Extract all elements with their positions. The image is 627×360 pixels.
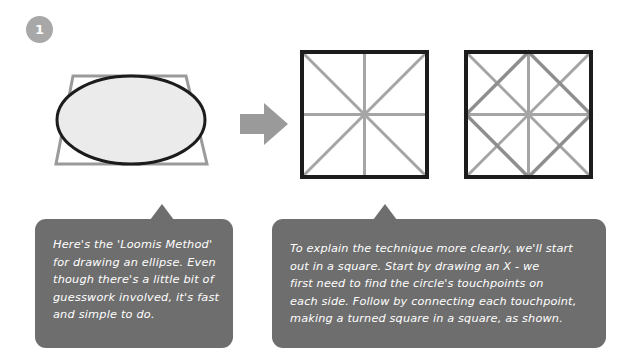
square-guides [466, 52, 591, 177]
square-with-x-icon [296, 46, 434, 184]
square-technique-text: To explain the technique more clearly, w… [290, 240, 595, 328]
square-guides [302, 52, 427, 177]
right-arrow-icon [238, 100, 290, 148]
loomis-method-speech-bubble: Here's the 'Loomis Method' for drawing a… [35, 219, 233, 348]
right-arrow-figure [238, 100, 290, 148]
square-with-turned-square-figure [460, 46, 598, 184]
square-with-turned-square-icon [460, 46, 598, 184]
loomis-method-text: Here's the 'Loomis Method' for drawing a… [53, 236, 222, 324]
square-bubble-tail [373, 204, 397, 220]
square-technique-speech-bubble: To explain the technique more clearly, w… [272, 219, 606, 348]
ellipse-in-perspective-square-icon [52, 60, 227, 180]
ellipse-shape [57, 76, 205, 164]
loomis-bubble-tail [150, 204, 174, 220]
step-number-badge: 1 [26, 16, 53, 43]
square-with-x-figure [296, 46, 434, 184]
ellipse-in-perspective-square-figure [52, 60, 227, 180]
illustration-page: 1 [0, 0, 627, 360]
